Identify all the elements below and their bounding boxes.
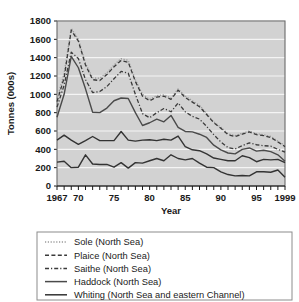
line-chart: 0200400600800100012001400160018001967707… bbox=[0, 0, 299, 302]
x-axis-ticks: 19677075808590951999 bbox=[46, 186, 295, 203]
y-tick-label: 1400 bbox=[30, 52, 51, 63]
y-tick-label: 600 bbox=[35, 125, 51, 136]
y-axis-title: Tonnes (000s) bbox=[5, 72, 16, 135]
x-tick-label: 85 bbox=[180, 192, 191, 203]
y-tick-label: 0 bbox=[46, 180, 51, 191]
x-tick-label: 90 bbox=[216, 192, 227, 203]
chart-legend: Sole (North Sea)Plaice (North Sea)Saithe… bbox=[37, 232, 292, 300]
x-tick-label: 95 bbox=[251, 192, 262, 203]
y-tick-label: 1200 bbox=[30, 70, 51, 81]
y-tick-label: 1600 bbox=[30, 34, 51, 45]
y-tick-label: 800 bbox=[35, 107, 51, 118]
legend-label-0: Sole (North Sea) bbox=[74, 237, 143, 247]
legend-label-3: Haddock (North Sea) bbox=[74, 277, 161, 287]
fisheries-landings-chart-figure: 0200400600800100012001400160018001967707… bbox=[0, 0, 299, 302]
legend-label-1: Plaice (North Sea) bbox=[74, 251, 150, 261]
legend-label-4: Whiting (North Sea and eastern Channel) bbox=[74, 290, 245, 300]
legend-label-2: Saithe (North Sea) bbox=[74, 264, 151, 274]
x-tick-label: 1999 bbox=[274, 192, 295, 203]
y-tick-label: 400 bbox=[35, 144, 51, 155]
y-tick-label: 200 bbox=[35, 162, 51, 173]
y-tick-label: 1800 bbox=[30, 15, 51, 26]
y-axis-ticks: 020040060080010001200140016001800 bbox=[30, 15, 57, 191]
x-tick-label: 80 bbox=[144, 192, 155, 203]
x-axis-title: Year bbox=[161, 205, 181, 216]
y-tick-label: 1000 bbox=[30, 89, 51, 100]
x-tick-label: 70 bbox=[73, 192, 84, 203]
x-tick-label: 75 bbox=[109, 192, 120, 203]
x-tick-label: 1967 bbox=[46, 192, 67, 203]
